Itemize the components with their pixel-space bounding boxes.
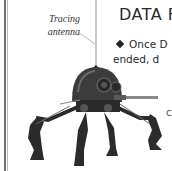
front-left-leg — [74, 112, 88, 166]
right-leg — [148, 114, 162, 150]
spider-droid-illustration — [0, 0, 172, 171]
left-leg — [28, 116, 44, 160]
front-right-leg — [104, 112, 118, 156]
callout-leader-line — [78, 32, 95, 44]
